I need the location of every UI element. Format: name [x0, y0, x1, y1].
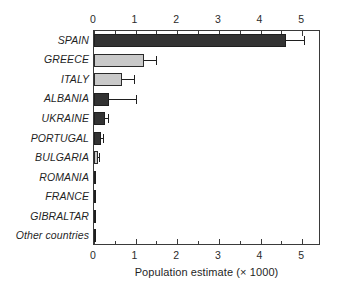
- bar: [94, 190, 96, 203]
- bar-row: [94, 90, 319, 110]
- bar-row: [94, 207, 319, 227]
- axis-tick-label: 2: [164, 249, 188, 261]
- x-axis-title: Population estimate (× 1000): [93, 266, 320, 278]
- bar-row: [94, 109, 319, 129]
- axis-tick-label: 3: [206, 249, 230, 261]
- axis-tick-label: 1: [123, 249, 147, 261]
- category-label: ALBANIA: [0, 92, 89, 104]
- bar-row: [94, 70, 319, 90]
- axis-tick-label: 2: [164, 13, 188, 25]
- axis-tick-label: 0: [81, 13, 105, 25]
- bar-row: [94, 226, 319, 246]
- category-label: SPAIN: [0, 34, 89, 46]
- bar: [94, 210, 96, 223]
- axis-tick-label: 3: [206, 13, 230, 25]
- bar: [94, 54, 144, 67]
- bar-row: [94, 168, 319, 188]
- error-bar-cap: [108, 114, 109, 123]
- bar-row: [94, 51, 319, 71]
- error-bar-cap: [304, 36, 305, 45]
- error-bar-cap: [134, 75, 135, 84]
- bar: [94, 229, 96, 242]
- axis-tick-label: 1: [123, 13, 147, 25]
- bar-row: [94, 187, 319, 207]
- error-bar-cap: [99, 153, 100, 162]
- bar-row: [94, 31, 319, 51]
- category-label: UKRAINE: [0, 112, 89, 124]
- axis-tick-label: 5: [289, 13, 313, 25]
- bar: [94, 151, 98, 164]
- axis-tick-label: 4: [248, 249, 272, 261]
- bar-row: [94, 129, 319, 149]
- error-bar-cap: [156, 56, 157, 65]
- error-bar-cap: [103, 134, 104, 143]
- category-label: PORTUGAL: [0, 132, 89, 144]
- error-bar-cap: [136, 95, 137, 104]
- category-label: Other countries: [0, 229, 89, 241]
- bar: [94, 112, 105, 125]
- category-label: ITALY: [0, 73, 89, 85]
- category-label: BULGARIA: [0, 151, 89, 163]
- plot-area: [93, 30, 320, 245]
- bar: [94, 132, 101, 145]
- axis-tick-label: 5: [289, 249, 313, 261]
- bar: [94, 73, 122, 86]
- bar: [94, 34, 286, 47]
- population-bar-chart: 012345 SPAINGREECEITALYALBANIAUKRAINEPOR…: [0, 0, 342, 289]
- bar: [94, 93, 109, 106]
- bar: [94, 171, 96, 184]
- bar-row: [94, 148, 319, 168]
- axis-tick-label: 4: [248, 13, 272, 25]
- axis-tick-label: 0: [81, 249, 105, 261]
- category-label: FRANCE: [0, 190, 89, 202]
- category-label: ROMANIA: [0, 171, 89, 183]
- category-label: GIBRALTAR: [0, 210, 89, 222]
- category-label: GREECE: [0, 53, 89, 65]
